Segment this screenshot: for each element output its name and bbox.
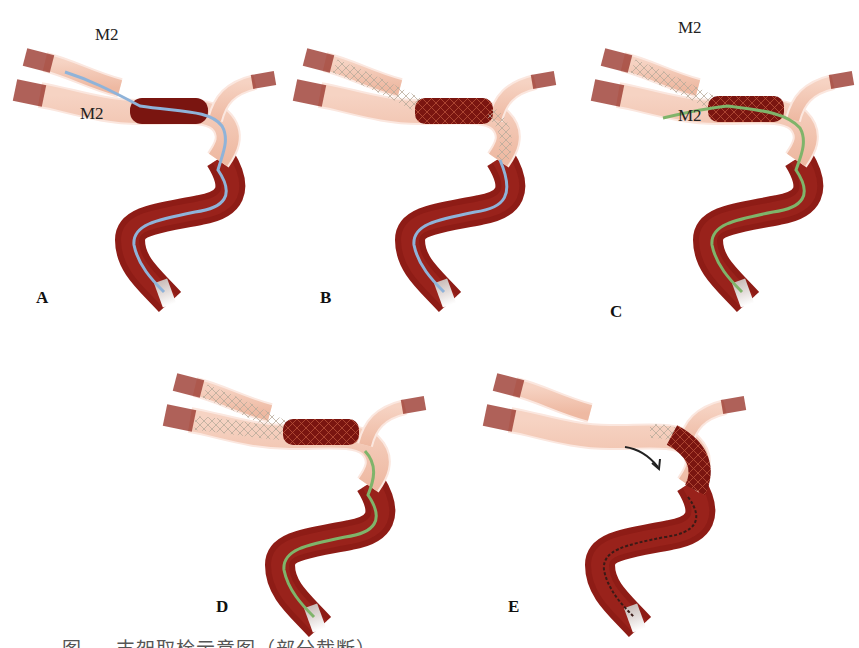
panel-b: B [310, 40, 570, 310]
vessel-illustration-d [180, 365, 440, 635]
panel-d: D [180, 365, 440, 625]
panel-label-e: E [508, 597, 519, 617]
vessel-illustration-e [500, 365, 760, 635]
panel-c: M2 M2 C [608, 40, 859, 320]
vessel-illustration-b [310, 40, 570, 310]
figure-caption-text: 图 — 支架取栓示意图（部分截断） [62, 634, 376, 648]
clot-with-stent [283, 419, 359, 445]
vessel-label-m2-lower: M2 [80, 104, 104, 124]
panel-label-b: B [320, 288, 331, 308]
panel-a: M2 M2 A [30, 40, 290, 310]
vessel-label-m2-upper: M2 [678, 18, 702, 38]
panel-e: E [500, 365, 760, 625]
panel-label-a: A [36, 288, 48, 308]
clot-with-stent [415, 98, 493, 124]
vessel-label-m2-upper: M2 [95, 25, 119, 45]
vessel-label-m2-lower: M2 [678, 106, 702, 126]
vessel-illustration-a [30, 40, 290, 310]
vessel-illustration-c [608, 40, 859, 310]
panel-label-d: D [216, 597, 228, 617]
figure-caption: 图 — 支架取栓示意图（部分截断） [0, 632, 859, 648]
panel-label-c: C [610, 302, 622, 322]
